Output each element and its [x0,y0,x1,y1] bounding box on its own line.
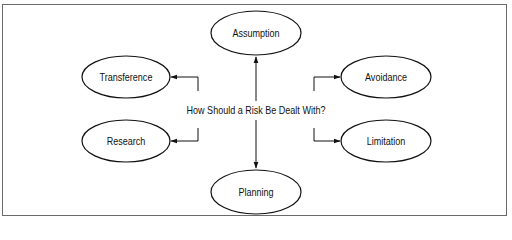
research-label: Research [90,132,162,150]
transference-label: Transference [90,68,162,86]
planning-label: Planning [219,183,293,201]
assumption-label: Assumption [219,24,293,42]
edge-to-research [171,128,198,141]
edge-to-limitation [314,128,340,141]
limitation-label: Limitation [349,132,423,150]
edge-to-transference [171,77,198,91]
avoidance-label: Avoidance [349,68,423,86]
edge-to-avoidance [314,77,340,91]
central-question: How Should a Risk Be Dealt With? [194,102,319,118]
